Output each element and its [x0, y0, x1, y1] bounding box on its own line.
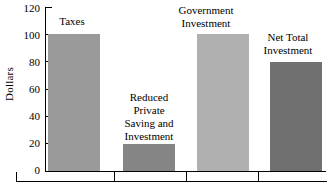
- bar-taxes: [48, 34, 100, 171]
- bar-label-government-investment: Government Investment: [162, 4, 250, 30]
- y-tick-label-0: 0: [16, 165, 40, 176]
- bar-net-total-investment: [270, 62, 322, 171]
- bar-label-net-total-investment: Net Total Investment: [250, 31, 326, 57]
- y-tick-label-100: 100: [16, 30, 40, 41]
- y-tick-label-20: 20: [16, 138, 40, 149]
- x-axis-left-cap: [16, 172, 17, 182]
- x-axis-baseline: [16, 181, 327, 182]
- y-tick-label-80: 80: [16, 57, 40, 68]
- y-tick-label-60: 60: [16, 84, 40, 95]
- bar-label-reduced-private-saving-and-investment: Reduced Private Saving and Investment: [108, 91, 190, 143]
- bar-label-taxes: Taxes: [32, 15, 112, 28]
- bar-government-investment: [197, 34, 249, 171]
- x-tick-mark-3: [258, 172, 259, 182]
- bar-chart: Dollars 120 100 80 60 40 20 0 Taxes Redu…: [0, 0, 327, 194]
- x-tick-mark-2: [186, 172, 187, 182]
- y-axis-tick-labels: 120 100 80 60 40 20 0: [14, 0, 40, 194]
- y-tick-label-120: 120: [16, 3, 40, 14]
- x-tick-mark-1: [114, 172, 115, 182]
- y-tick-label-40: 40: [16, 111, 40, 122]
- bar-reduced-private-saving-and-investment: [123, 144, 175, 171]
- y-tick-mark-0: [46, 171, 52, 172]
